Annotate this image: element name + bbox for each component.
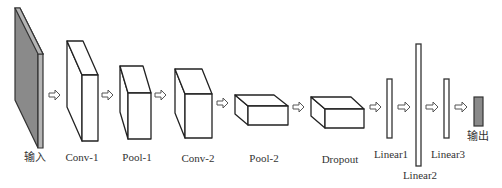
label-linear1: Linear1 (374, 148, 408, 160)
arrow-icon (426, 102, 438, 112)
label-pool1: Pool-1 (122, 151, 151, 163)
label-pool2: Pool-2 (249, 152, 278, 164)
layer-output-block (474, 97, 483, 126)
arrow-icon (398, 102, 410, 112)
arrow-icon (155, 90, 166, 100)
label-dropout: Dropout (322, 153, 359, 165)
label-conv1: Conv-1 (66, 151, 99, 163)
arrow-icon (293, 102, 304, 112)
label-linear3: Linear3 (431, 148, 466, 160)
dropout-front-face (325, 109, 364, 128)
conv1-front-face (82, 75, 98, 141)
input-slab-side (38, 54, 43, 148)
label-conv2: Conv-2 (182, 152, 215, 164)
pool1-front-face (128, 93, 151, 139)
arrow-icon (49, 90, 60, 100)
layer-linear1-bar (387, 79, 392, 138)
layer-conv2 (175, 69, 212, 138)
layer-dropout (311, 97, 364, 128)
cnn-diagram: 输入 Conv-1 Pool-1 Conv-2 Pool-2 Dropout L… (0, 0, 502, 188)
arrow-icon (217, 98, 228, 108)
label-input: 输入 (24, 150, 46, 163)
pool2-front-face (248, 106, 288, 125)
conv2-front-face (185, 94, 212, 138)
arrow-icon (370, 102, 381, 112)
arrow-icon (102, 90, 113, 100)
layer-pool1 (120, 66, 151, 139)
layer-conv1 (67, 41, 98, 141)
label-linear2: Linear2 (403, 169, 437, 181)
arrow-icon (455, 102, 467, 112)
layer-pool2 (235, 95, 288, 125)
layer-linear3-bar (444, 79, 449, 138)
layer-input (15, 8, 43, 148)
layer-linear2-bar (416, 44, 421, 166)
label-output: 输出 (467, 129, 489, 142)
